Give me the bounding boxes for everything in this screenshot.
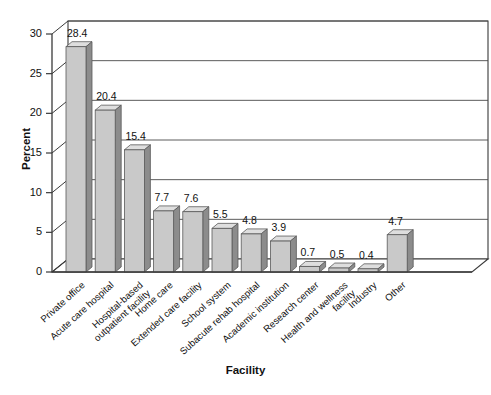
bar-value-label: 15.4 (125, 130, 145, 142)
bar-value-label: 20.4 (96, 90, 116, 102)
bar-value-label: 4.8 (242, 214, 257, 226)
bar-value-label: 7.6 (184, 192, 199, 204)
bar (241, 229, 267, 272)
bar (300, 261, 326, 272)
y-axis-tick-label: 5 (16, 225, 42, 237)
bar (183, 207, 209, 272)
bar-value-label: 4.7 (388, 215, 403, 227)
y-axis-tick-label: 10 (16, 186, 42, 198)
bar-value-label: 7.7 (155, 191, 170, 203)
bar (154, 206, 180, 272)
y-axis-tick-label: 30 (16, 27, 42, 39)
bar-chart: Percent Facility 051015202530 28.420.415… (0, 0, 491, 395)
bar-value-label: 28.4 (67, 27, 87, 39)
bar-value-label: 0.5 (330, 248, 345, 260)
y-axis-tick-label: 20 (16, 106, 42, 118)
y-axis-tick-label: 25 (16, 67, 42, 79)
y-axis-tick-label: 0 (16, 265, 42, 277)
bar (66, 42, 92, 272)
bar (124, 145, 150, 272)
y-axis-tick-label: 15 (16, 146, 42, 158)
bar-value-label: 5.5 (213, 208, 228, 220)
bar-value-label: 3.9 (271, 221, 286, 233)
bar (270, 236, 296, 272)
bar-value-label: 0.7 (301, 246, 316, 258)
bar (212, 223, 238, 272)
bar (329, 263, 355, 272)
chart-plot-area (0, 0, 491, 395)
x-axis-title: Facility (0, 364, 491, 376)
bar (387, 230, 413, 272)
bar-value-label: 0.4 (359, 249, 374, 261)
bar (95, 105, 121, 272)
